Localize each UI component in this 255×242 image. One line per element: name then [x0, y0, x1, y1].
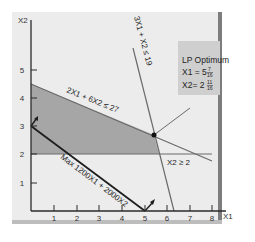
y-axis-label: X2 — [18, 16, 28, 25]
svg-text:5: 5 — [143, 214, 148, 223]
svg-text:7: 7 — [188, 214, 193, 223]
lp-chart: 1 2 3 4 5 6 7 8 1 2 3 4 5 X2 X1 2X1 + 6X… — [0, 0, 255, 242]
objective-label: Max 1200X1 + 2000X2 — [59, 152, 130, 209]
gradient-ray — [154, 108, 190, 135]
y-tick-labels: 1 2 3 4 5 — [20, 66, 25, 188]
constraint-label-3: X2 ≥ 2 — [167, 158, 191, 167]
svg-text:4: 4 — [20, 94, 25, 103]
x-axis-label: X1 — [223, 212, 233, 221]
svg-text:6: 6 — [165, 214, 170, 223]
svg-text:3: 3 — [20, 122, 25, 131]
svg-text:1: 1 — [52, 214, 57, 223]
x-ticks — [54, 205, 212, 211]
svg-text:16: 16 — [207, 72, 213, 78]
svg-text:X2= 2: X2= 2 — [182, 80, 205, 90]
svg-text:8: 8 — [210, 214, 215, 223]
x-tick-labels: 1 2 3 4 5 6 7 8 — [52, 214, 215, 223]
svg-text:4: 4 — [120, 214, 125, 223]
svg-text:3: 3 — [97, 214, 102, 223]
svg-text:2: 2 — [75, 214, 80, 223]
svg-text:5: 5 — [20, 66, 25, 75]
svg-text:2: 2 — [20, 150, 25, 159]
optimum-point — [152, 133, 157, 138]
feasible-region — [31, 84, 159, 154]
svg-text:LP Optimum: LP Optimum — [182, 55, 229, 65]
svg-text:X1 = 5: X1 = 5 — [182, 67, 207, 77]
svg-text:16: 16 — [207, 85, 213, 91]
svg-text:1: 1 — [20, 179, 25, 188]
